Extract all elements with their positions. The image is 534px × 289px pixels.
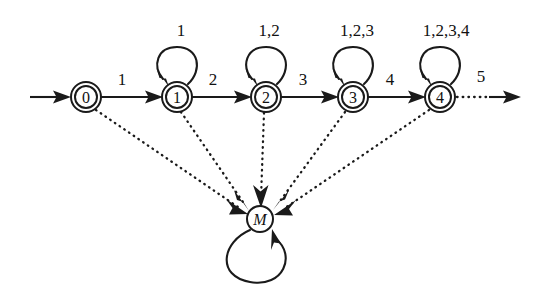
monitor-edge-1-to-m (181, 112, 249, 211)
state-node-m[interactable]: M (247, 206, 273, 232)
monitor-edge-0-to-m (96, 110, 248, 215)
transition-4-to-exit (457, 91, 521, 104)
transition-label-1-to-2: 2 (209, 70, 218, 89)
state-diagram-canvas: 0 1 2 3 4 M 1 2 3 4 5 (0, 0, 534, 289)
state-node-2-label: 2 (262, 89, 270, 106)
transition-label-0-to-1: 1 (118, 70, 127, 89)
monitor-arrowhead (274, 200, 296, 216)
transition-label-4-to-exit: 5 (477, 67, 486, 86)
state-node-4[interactable]: 4 (425, 82, 455, 112)
state-node-1[interactable]: 1 (162, 82, 192, 112)
monitor-edge-3-to-m (273, 112, 345, 210)
self-loop-state-4 (420, 47, 460, 87)
transition-0-to-1 (101, 91, 163, 104)
state-node-4-label: 4 (436, 89, 444, 106)
self-loop-label-state-3: 1,2,3 (340, 21, 374, 40)
monitor-edge-4-to-m (274, 110, 429, 216)
monitor-arrowhead (226, 199, 248, 215)
monitor-edge-2-to-m (253, 113, 269, 208)
transition-label-2-to-3: 3 (299, 70, 308, 89)
self-loop-state-2 (246, 47, 286, 87)
transition-label-3-to-4: 4 (386, 70, 395, 89)
state-node-0[interactable]: 0 (71, 82, 101, 112)
transition-2-to-3 (281, 91, 339, 104)
state-node-m-label: M (252, 211, 268, 228)
state-machine-diagram: 0 1 2 3 4 M 1 2 3 4 5 (0, 0, 534, 289)
state-node-3[interactable]: 3 (338, 82, 368, 112)
state-node-2[interactable]: 2 (251, 82, 281, 112)
self-loop-state-3 (333, 47, 373, 87)
self-loop-label-state-2: 1,2 (258, 21, 279, 40)
self-loop-label-state-1: 1 (177, 21, 186, 40)
self-loop-label-state-4: 1,2,3,4 (423, 21, 470, 40)
state-node-3-label: 3 (349, 89, 357, 106)
self-loop-state-m (227, 229, 286, 283)
start-arrow (30, 91, 71, 104)
state-node-0-label: 0 (82, 89, 90, 106)
transition-3-to-4 (368, 91, 426, 104)
transition-1-to-2 (192, 91, 252, 104)
state-node-1-label: 1 (173, 89, 181, 106)
self-loop-arrowhead (271, 229, 281, 250)
self-loop-state-1 (157, 47, 197, 87)
